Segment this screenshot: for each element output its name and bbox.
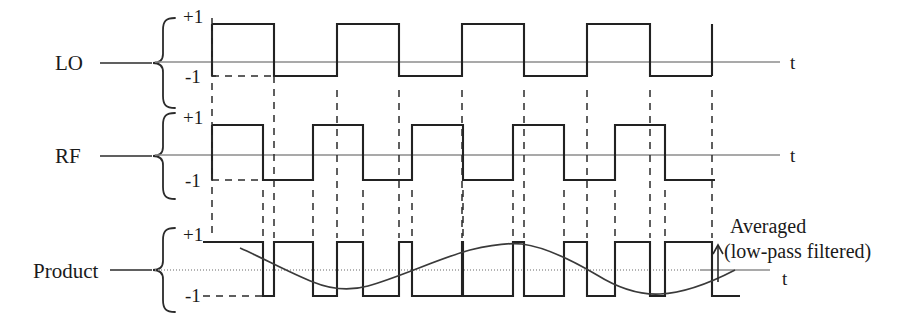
rf-axis-label: t (790, 145, 796, 166)
averaged-envelope-curve (240, 244, 735, 294)
mixer-waveform-figure: LO +1 -1 t RF +1 -1 (0, 0, 923, 318)
rf-brace (153, 113, 175, 199)
lo-waveform (212, 24, 712, 76)
lo-axis-label: t (790, 52, 796, 73)
product-row: Product +1 -1 t Averaged (low-pass filte… (33, 215, 871, 312)
product-low-level-label: -1 (185, 285, 201, 306)
product-axis-label: t (782, 268, 788, 289)
lo-low-level-label: -1 (185, 66, 201, 87)
rf-row: RF +1 -1 t (55, 107, 796, 199)
lo-high-level-label: +1 (183, 6, 203, 27)
rf-low-level-label: -1 (185, 170, 201, 191)
lo-brace (153, 18, 175, 108)
rf-row-label: RF (55, 144, 81, 168)
product-row-label: Product (33, 259, 98, 283)
rf-waveform (212, 125, 715, 180)
lo-row: LO +1 -1 t (55, 6, 796, 108)
product-high-level-label: +1 (183, 224, 203, 245)
rf-high-level-label: +1 (183, 107, 203, 128)
averaged-annotation-line1: Averaged (730, 215, 806, 238)
lo-row-label: LO (55, 51, 83, 75)
averaged-annotation-line2: (low-pass filtered) (724, 240, 871, 263)
